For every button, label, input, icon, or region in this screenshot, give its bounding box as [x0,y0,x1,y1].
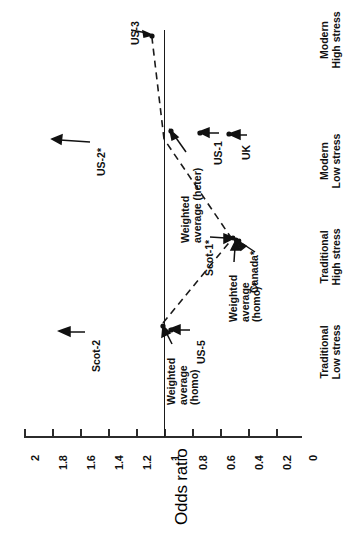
data-point-us-3 [149,33,154,38]
arrow-uk [229,130,247,139]
label-uk: UK [241,145,253,160]
label-line1: Weighted [179,196,191,243]
data-point-canada [237,239,242,244]
axis-tick-0_6 [220,429,222,437]
label-us-5: US-5 [196,340,208,364]
label-line1: Weighted [227,275,239,322]
label-line2: average (heter) [191,168,203,243]
axis-tick-label-0_6: 0.6 [225,455,237,470]
label-line3: (homo) [188,369,200,405]
axis-tick-label-1_2: 1.2 [141,455,153,470]
data-point-weighted-average-homo-star [234,238,239,243]
label-line2: average [177,365,189,405]
axis-tick-label-1_6: 1.6 [85,455,97,470]
label-us-3: US-3 [130,21,142,45]
axis-tick-0_2 [276,429,278,437]
group-label-line2: Low stress [330,134,342,189]
arrow-us-2 [52,135,90,144]
axis-tick-label-0_4: 0.4 [253,455,265,470]
axis-tick-1_6 [80,429,82,437]
data-point-scot-1 [231,236,236,241]
group-label-line2: Low stress [330,325,342,380]
axis-tick-label-0_8: 0.8 [197,455,209,470]
arrow-weighted-average-homo-star [231,240,240,262]
data-point-weighted-average-heter [168,128,173,133]
odds-ratio-forest-plot: 2 1.8 1.6 1.4 1.2 1 0.8 0.6 0.4 0.2 0 Od… [0,0,353,538]
label-line1: Weighted [165,358,177,405]
axis-tick-label-2: 2 [29,455,41,461]
label-weighted-average-heter: Weighted average (heter) [180,168,203,243]
label-us-1: US-1 [213,141,225,165]
arrow-us-5 [170,325,190,334]
axis-tick-1_2 [136,429,138,437]
arrow-us-1 [199,128,219,137]
axis-tick-label-1_8: 1.8 [57,455,69,470]
arrow-scot-2 [59,327,85,336]
group-label-modern-high-stress: Modern High stress [318,0,342,95]
label-scot-1: Scot-1* [204,240,216,276]
x-axis-line [24,436,302,438]
label-scot-2: Scot-2 [91,340,103,372]
label-weighted-average-homo: Weighted average (homo) [166,358,201,405]
label-us-2: US-2* [96,148,108,176]
axis-tick-1_8 [52,429,54,437]
axis-tick-0_4 [248,429,250,437]
arrow-weighted-average-heter [170,130,186,152]
data-point-us-5 [168,327,173,332]
annotation-arrows [52,30,255,344]
group-label-modern-low-stress: Modern Low stress [318,106,342,216]
group-label-traditional-high-stress: Traditional High stress [318,202,342,312]
axis-tick-0_8 [192,429,194,437]
label-line2: average [239,282,251,322]
group-label-line2: High stress [330,228,342,285]
data-point-us-1 [197,130,202,135]
data-point-uk [226,131,231,136]
axis-tick-2 [24,429,26,437]
axis-tick-1_4 [108,429,110,437]
axis-tick-label-1_4: 1.4 [113,455,125,470]
label-weighted-average-homo-star: Weighted average (homo)* [228,275,263,322]
group-label-line1: Traditional [318,230,330,283]
axis-tick-label-0: 0 [307,455,319,461]
x-axis-title: Odds ratio [172,449,192,525]
axis-tick-label-0_2: 0.2 [281,455,293,470]
group-label-line1: Modern [318,142,330,180]
group-label-traditional-low-stress: Traditional Low stress [318,297,342,407]
group-label-line2: High stress [330,11,342,68]
group-label-line1: Modern [318,21,330,59]
label-line3: (homo)* [250,282,262,322]
group-label-line1: Traditional [318,325,330,378]
